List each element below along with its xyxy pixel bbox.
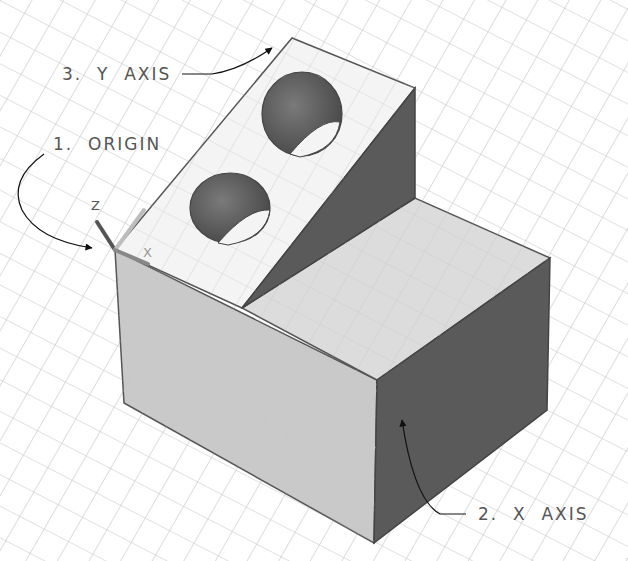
- ucs-z-label: Z: [91, 198, 102, 213]
- label-origin: 1. ORIGIN: [53, 134, 161, 154]
- label-y-axis: 3. Y AXIS: [62, 64, 171, 84]
- ucs-x-label: X: [143, 245, 154, 260]
- diagram-canvas: [0, 0, 628, 561]
- label-x-axis: 2. X AXIS: [478, 504, 589, 524]
- hole-upper: [262, 72, 342, 157]
